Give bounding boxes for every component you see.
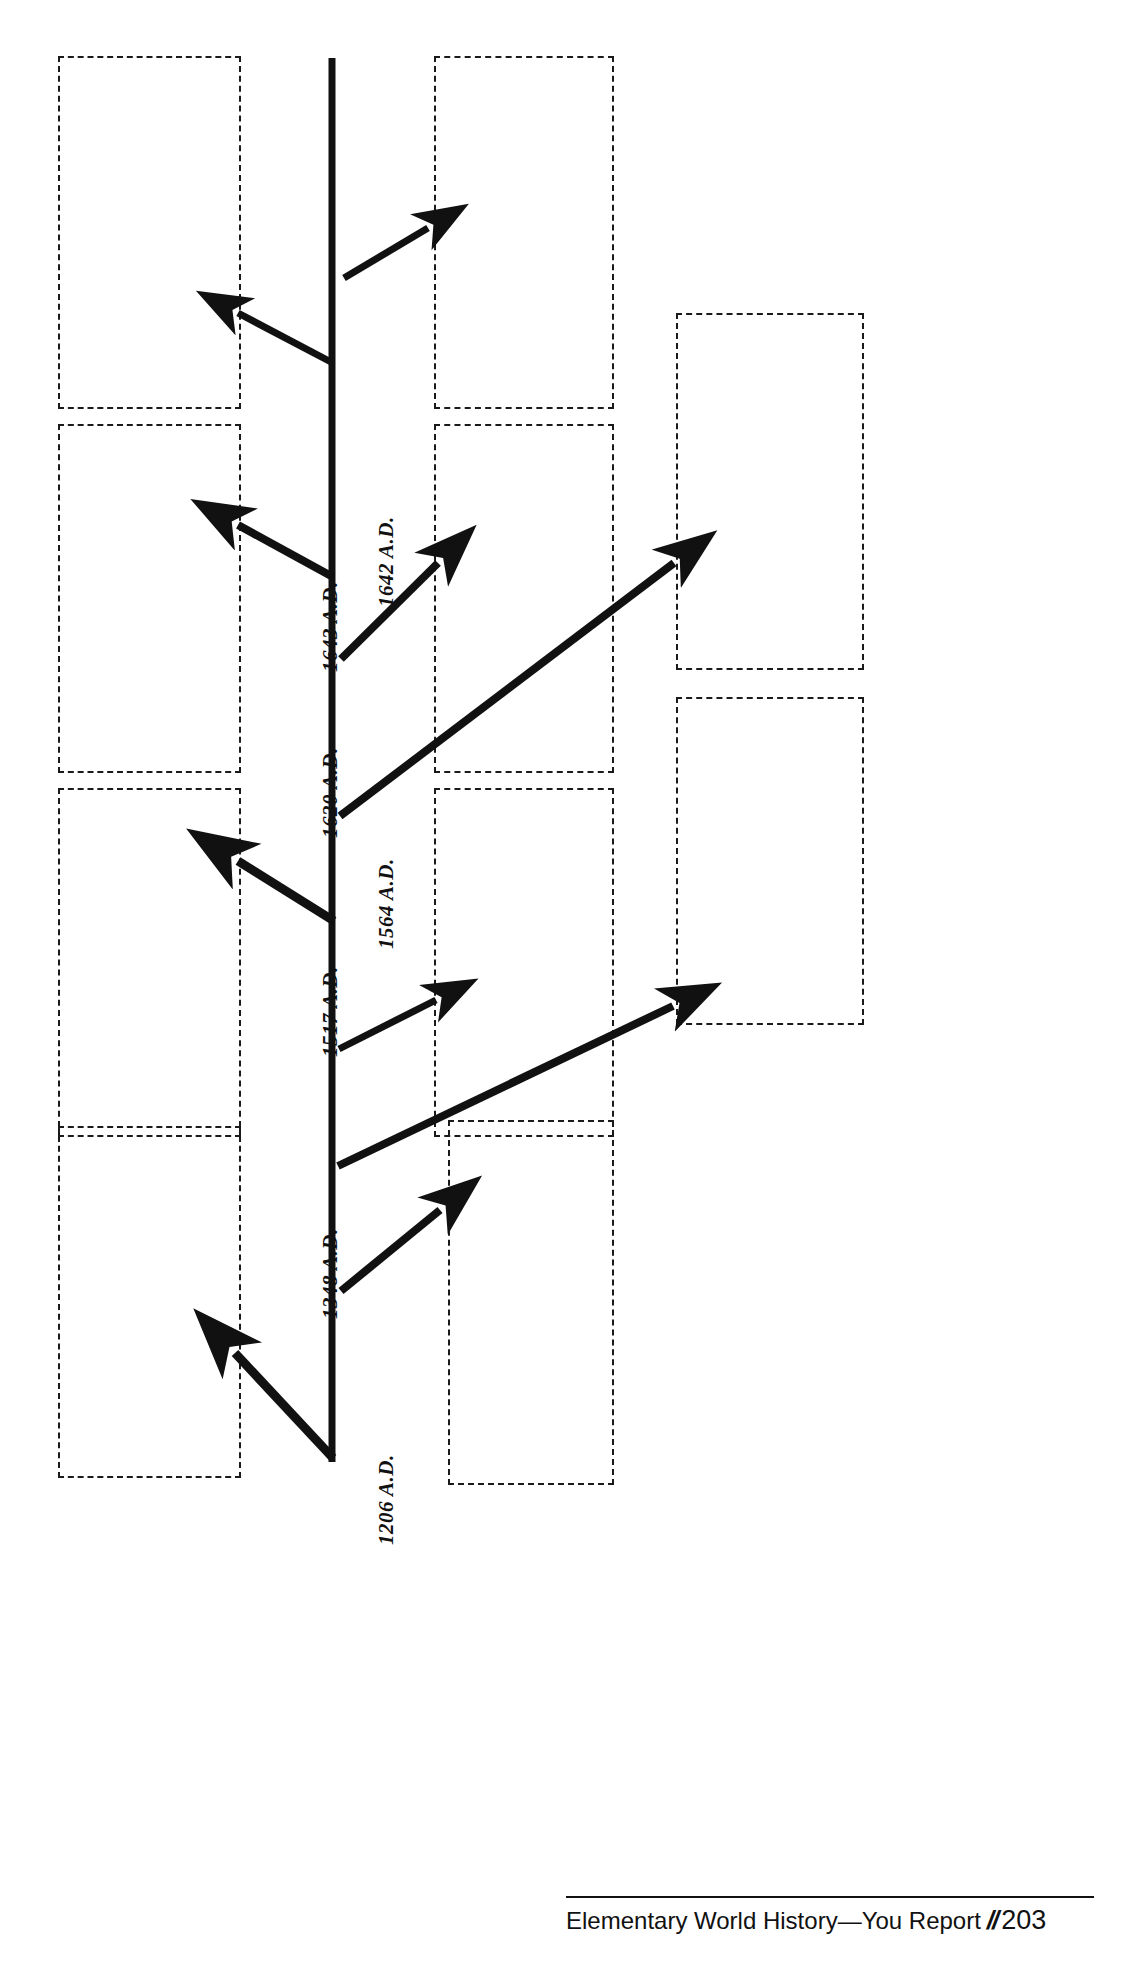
arrow-to-box-left-4 xyxy=(238,313,331,362)
date-label-1620: 1620 A.D. xyxy=(318,747,343,838)
arrow-to-box-right-1 xyxy=(341,1210,440,1291)
page-number: 203 xyxy=(1001,1905,1046,1935)
arrow-to-box-right-4 xyxy=(344,228,428,278)
date-label-1643: 1643 A.D. xyxy=(318,581,343,672)
arrow-to-box-left-3 xyxy=(238,525,333,577)
footer-book-title: Elementary World History—You Report xyxy=(566,1907,981,1934)
date-label-1517: 1517 A.D. xyxy=(318,966,343,1057)
arrow-to-box-right-2 xyxy=(339,1000,436,1049)
date-label-1348: 1348 A.D. xyxy=(318,1228,343,1319)
footer-slash-marks: // xyxy=(987,1905,997,1936)
page-footer: Elementary World History—You Report//203 xyxy=(566,1896,1094,1936)
timeline-diagram xyxy=(0,0,1148,1969)
arrow-to-box-left-1 xyxy=(235,1353,333,1458)
date-label-1206: 1206 A.D. xyxy=(374,1454,399,1545)
worksheet-page: 1643 A.D. 1642 A.D. 1620 A.D. 1564 A.D. … xyxy=(0,0,1148,1969)
arrow-to-box-far-right-2 xyxy=(338,1006,673,1166)
date-label-1642: 1642 A.D. xyxy=(374,516,399,607)
arrow-to-box-left-2 xyxy=(238,861,334,921)
date-label-1564: 1564 A.D. xyxy=(374,858,399,949)
